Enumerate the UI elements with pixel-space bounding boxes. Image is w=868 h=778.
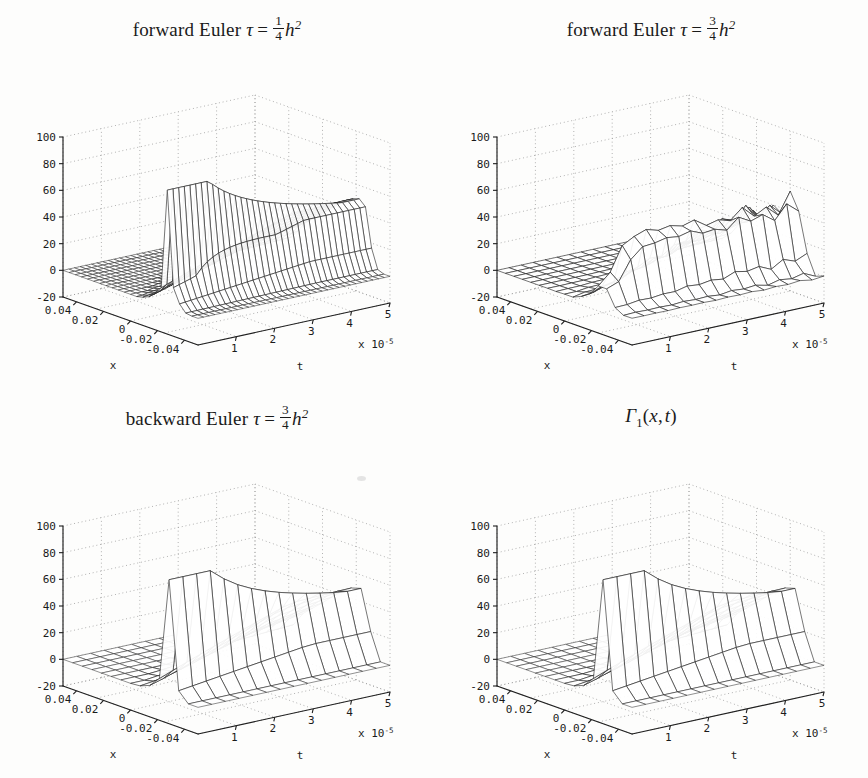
surface-plot-axes: 100806040200-200.040.020-0.02-0.0412345x… [434,0,868,389]
mesh-surface [63,181,390,318]
t-axis-multiplier: x 10-5 [358,337,394,351]
z-tick-label: 40 [43,211,56,224]
surface-plot-panel-forward-euler-quarter: forward Euler τ=14h2100806040200-200.040… [0,0,434,389]
t-tick-label: 5 [385,308,392,321]
figure-panel-grid: forward Euler τ=14h2100806040200-200.040… [0,0,868,778]
surface-plot-panel-backward-euler-three-quarter: backward Euler τ=34h2100806040200-200.04… [0,389,434,778]
z-tick-label: 20 [477,627,490,640]
z-tick-label: 60 [43,184,56,197]
t-axis-multiplier: x 10-5 [358,726,394,740]
surface-plot-axes: 100806040200-200.040.020-0.02-0.0412345x… [0,389,434,778]
t-tick-label: 3 [742,714,749,727]
t-tick-label: 3 [308,714,315,727]
x-tick-label: -0.04 [146,732,179,745]
z-tick-label: 80 [477,158,490,171]
x-axis-label: x [110,748,117,761]
z-tick-label: 40 [43,600,56,613]
z-tick-label: 80 [43,547,56,560]
x-axis-label: x [110,359,117,372]
z-tick-label: 80 [43,158,56,171]
z-tick-label: 40 [477,211,490,224]
z-tick-label: 100 [36,131,56,144]
x-tick-label: 0.04 [45,693,72,706]
x-tick-label: -0.04 [146,343,179,356]
z-tick-label: 60 [477,184,490,197]
x-tick-label: 0.02 [506,703,533,716]
z-tick-label: 0 [49,653,56,666]
t-tick-label: 5 [819,308,826,321]
t-tick-label: 1 [665,731,672,744]
t-axis-label: t [297,360,304,373]
t-tick-label: 4 [346,706,353,719]
t-tick-label: 2 [703,722,710,735]
t-tick-label: 1 [231,731,238,744]
z-tick-label: -20 [470,291,490,304]
scan-artifact-speck [357,476,366,481]
x-tick-label: 0.04 [45,304,72,317]
x-tick-label: 0.04 [479,693,506,706]
x-tick-label: 0.04 [479,304,506,317]
t-axis-label: t [731,360,738,373]
z-tick-label: 100 [470,520,490,533]
t-tick-label: 2 [703,333,710,346]
z-tick-label: 60 [43,573,56,586]
z-tick-label: 100 [470,131,490,144]
t-tick-label: 3 [742,325,749,338]
x-axis-label: x [544,359,551,372]
x-tick-label: 0.02 [72,314,99,327]
t-tick-label: 4 [780,706,787,719]
z-tick-label: -20 [36,291,56,304]
z-tick-label: -20 [36,680,56,693]
z-tick-label: 0 [483,653,490,666]
mesh-surface [63,571,390,708]
mesh-surface [497,191,824,318]
z-tick-label: -20 [470,680,490,693]
x-tick-label: 0.02 [506,314,533,327]
mesh-surface [497,571,824,708]
z-tick-label: 20 [477,238,490,251]
t-tick-label: 1 [231,342,238,355]
z-tick-label: 100 [36,520,56,533]
surface-plot-panel-exact-kernel: Γ1(x, t)100806040200-200.040.020-0.02-0.… [434,389,868,778]
t-tick-label: 2 [269,333,276,346]
z-tick-label: 60 [477,573,490,586]
t-tick-label: 4 [780,317,787,330]
t-axis-multiplier: x 10-5 [792,337,828,351]
t-tick-label: 3 [308,325,315,338]
x-tick-label: -0.04 [580,343,613,356]
x-tick-label: -0.04 [580,732,613,745]
surface-plot-axes: 100806040200-200.040.020-0.02-0.0412345x… [434,389,868,778]
t-tick-label: 2 [269,722,276,735]
t-tick-label: 1 [665,342,672,355]
t-axis-multiplier: x 10-5 [792,726,828,740]
z-tick-label: 20 [43,238,56,251]
z-tick-label: 0 [49,264,56,277]
surface-plot-panel-forward-euler-three-quarter: forward Euler τ=34h2100806040200-200.040… [434,0,868,389]
z-tick-label: 80 [477,547,490,560]
z-tick-label: 40 [477,600,490,613]
x-axis-label: x [544,748,551,761]
t-axis-label: t [731,749,738,762]
x-tick-label: 0.02 [72,703,99,716]
t-tick-label: 4 [346,317,353,330]
z-tick-label: 0 [483,264,490,277]
surface-plot-axes: 100806040200-200.040.020-0.02-0.0412345x… [0,0,434,389]
t-tick-label: 5 [819,697,826,710]
t-axis-label: t [297,749,304,762]
z-tick-label: 20 [43,627,56,640]
t-tick-label: 5 [385,697,392,710]
